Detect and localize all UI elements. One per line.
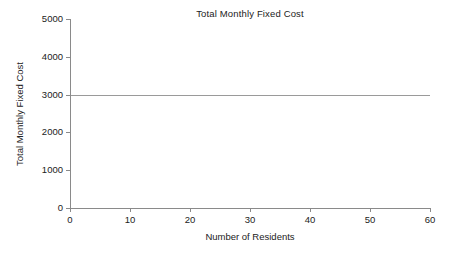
y-tick-mark bbox=[66, 132, 70, 133]
x-tick-mark bbox=[130, 208, 131, 212]
y-tick-label: 3000 bbox=[23, 89, 63, 100]
x-tick-label: 30 bbox=[230, 214, 270, 225]
x-tick-mark bbox=[190, 208, 191, 212]
y-tick-mark bbox=[66, 170, 70, 171]
chart-figure: Total Monthly Fixed Cost 010002000300040… bbox=[0, 0, 454, 255]
y-axis-spine bbox=[70, 19, 71, 209]
x-tick-label: 60 bbox=[410, 214, 450, 225]
series-line-total-monthly-fixed-cost bbox=[70, 95, 430, 96]
y-tick-label: 4000 bbox=[23, 51, 63, 62]
x-tick-mark bbox=[370, 208, 371, 212]
y-tick-mark bbox=[66, 95, 70, 96]
x-tick-label: 10 bbox=[110, 214, 150, 225]
x-tick-label: 40 bbox=[290, 214, 330, 225]
y-tick-label: 0 bbox=[23, 202, 63, 213]
plot-area bbox=[70, 19, 430, 208]
y-tick-label: 2000 bbox=[23, 126, 63, 137]
x-axis-label: Number of Residents bbox=[70, 231, 430, 242]
y-tick-label: 5000 bbox=[23, 13, 63, 24]
y-tick-mark bbox=[66, 57, 70, 58]
x-tick-mark bbox=[430, 208, 431, 212]
x-tick-mark bbox=[250, 208, 251, 212]
x-tick-mark bbox=[310, 208, 311, 212]
x-tick-label: 0 bbox=[50, 214, 90, 225]
chart-title: Total Monthly Fixed Cost bbox=[70, 8, 430, 19]
x-tick-label: 50 bbox=[350, 214, 390, 225]
y-tick-mark bbox=[66, 19, 70, 20]
y-axis-label: Total Monthly Fixed Cost bbox=[14, 19, 28, 209]
y-tick-label: 1000 bbox=[23, 164, 63, 175]
x-tick-mark bbox=[70, 208, 71, 212]
x-tick-label: 20 bbox=[170, 214, 210, 225]
